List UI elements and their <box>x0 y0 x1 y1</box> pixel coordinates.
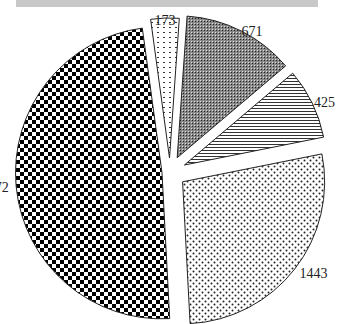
slice-label-425: 425 <box>314 95 335 110</box>
slice-label-2572: 2572 <box>0 180 9 195</box>
pie-slice-1443 <box>183 154 325 324</box>
slice-label-173: 173 <box>155 13 176 28</box>
pie-chart: 67142514432572173 <box>0 0 342 324</box>
slice-label-1443: 1443 <box>300 266 328 281</box>
pie-slice-2572 <box>16 28 170 319</box>
slice-label-671: 671 <box>241 24 262 39</box>
